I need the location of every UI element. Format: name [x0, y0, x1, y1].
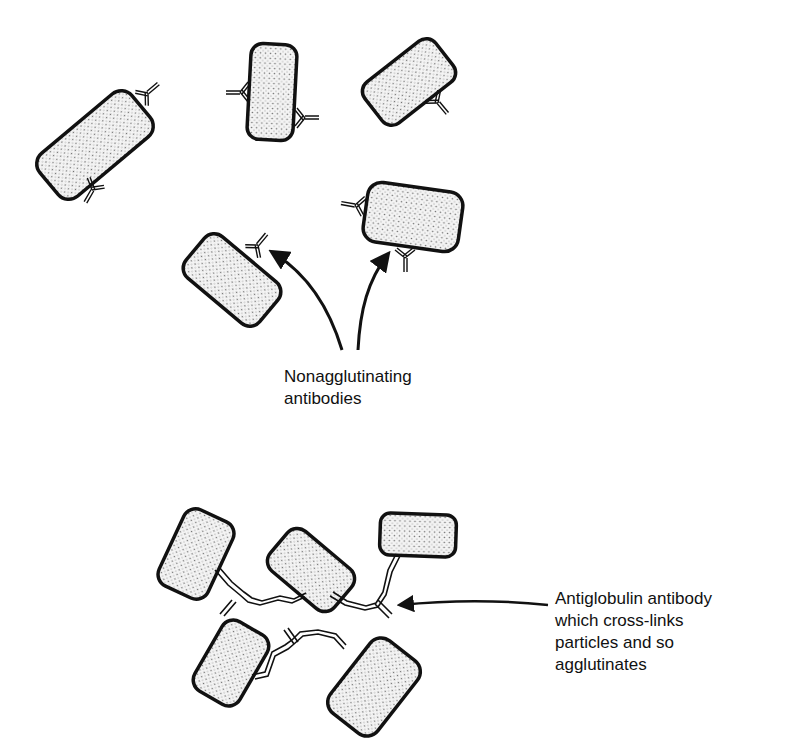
antiglobulin-antibody-label: Antiglobulin antibody which cross-links …: [555, 588, 792, 676]
particle-b1: [154, 505, 238, 604]
particle-5: [361, 181, 464, 254]
particle-3: [358, 34, 461, 130]
antibody-icon: [244, 228, 275, 259]
arrow-icon: [272, 252, 342, 350]
arrow-icon: [358, 254, 388, 350]
antibody-icon: [339, 193, 366, 217]
particle-2: [247, 43, 298, 141]
particle-b3: [379, 513, 456, 558]
antibody-icon: [226, 82, 250, 102]
arrow-icon: [400, 601, 548, 605]
top-panel: [31, 34, 465, 350]
particle-b2: [262, 523, 360, 617]
particle-b4: [188, 615, 273, 710]
diagram-canvas: Nonagglutinating antibodies Antiglobulin…: [0, 0, 792, 749]
antibody-icon: [295, 108, 319, 128]
particle-b5: [322, 632, 426, 741]
particle-4: [178, 228, 286, 331]
bottom-panel: [154, 505, 548, 742]
nonagglutinating-antibodies-label: Nonagglutinating antibodies: [284, 366, 484, 410]
antibody-icon: [395, 248, 415, 272]
